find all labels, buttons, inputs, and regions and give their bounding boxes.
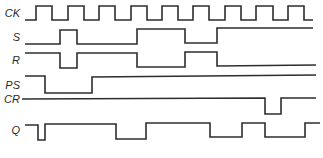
- signal-label-ck: CK: [5, 7, 21, 19]
- waveform-ck: [25, 6, 313, 20]
- signal-label-r: R: [12, 54, 20, 66]
- signal-ck: CK: [5, 6, 313, 20]
- signal-label-cr: CR: [4, 93, 20, 105]
- signal-s: S: [13, 28, 313, 44]
- waveform-ps: [25, 75, 316, 93]
- timing-diagram: CK S R PS CR Q: [0, 0, 323, 158]
- signal-ps: PS: [5, 75, 316, 93]
- waveform-cr: [22, 98, 316, 114]
- waveform-q: [25, 123, 320, 140]
- signal-label-s: S: [13, 31, 21, 43]
- signal-label-q: Q: [11, 124, 20, 136]
- signal-cr: CR: [4, 93, 316, 114]
- signal-label-ps: PS: [5, 79, 20, 91]
- signal-r: R: [12, 52, 316, 68]
- signal-q: Q: [11, 123, 320, 140]
- waveform-s: [25, 28, 313, 44]
- waveform-r: [25, 52, 316, 68]
